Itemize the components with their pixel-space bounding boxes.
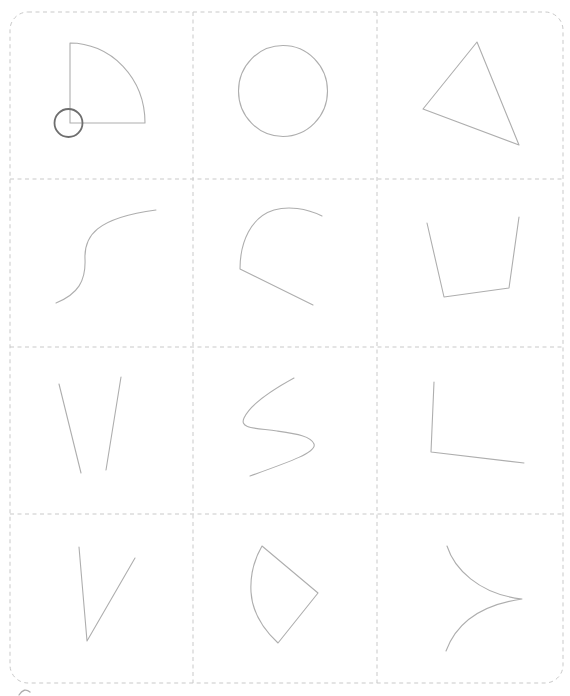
shape-s-wave (243, 378, 314, 476)
worksheet-canvas (0, 0, 570, 696)
shape-triangle (423, 42, 519, 145)
shape-two-slanted-lines-2 (106, 377, 121, 470)
shape-fan-sector (251, 546, 318, 643)
shape-open-trapezoid (427, 217, 519, 297)
shape-two-slanted-lines-1 (59, 384, 81, 473)
shape-cusp-curve (446, 546, 522, 651)
shape-s-curve (56, 210, 156, 303)
shape-quarter-sector-with-circle-1 (70, 43, 145, 123)
shape-hook-curve (240, 208, 322, 305)
shape-stray-pen-mark (19, 690, 30, 695)
worksheet-board (0, 0, 570, 696)
shape-l-angle (431, 382, 524, 463)
shape-v-shape (79, 547, 135, 641)
shape-circle (239, 46, 328, 137)
